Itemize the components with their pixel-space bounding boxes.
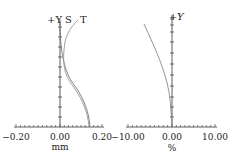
- left-tick-zero: 0.00: [50, 132, 70, 142]
- left-top-label: +Y: [47, 14, 62, 25]
- right-tick-pos: 10.00: [202, 132, 228, 142]
- distortion-plot: + Y −10.00 0.00 10.00 %: [111, 11, 228, 153]
- right-top-label: Y: [177, 11, 185, 22]
- s-curve: [60, 22, 90, 127]
- right-tick-neg: −10.00: [111, 132, 145, 142]
- left-unit: mm: [51, 142, 69, 152]
- charts-canvas: +Y S T −0.20 0.00 0.20 mm + Y −10.00 0.0…: [0, 0, 233, 159]
- legend-s: S: [65, 14, 72, 25]
- right-tick-zero: 0.00: [162, 132, 182, 142]
- left-tick-neg: −0.20: [2, 132, 30, 142]
- legend-t: T: [80, 14, 87, 25]
- right-unit: %: [168, 143, 177, 153]
- left-tick-pos: 0.20: [92, 132, 112, 142]
- field-curves-plot: +Y S T −0.20 0.00 0.20 mm: [2, 14, 112, 152]
- distortion-curve: [144, 24, 172, 127]
